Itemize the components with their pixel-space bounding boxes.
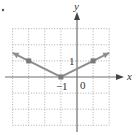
tick-label: 1 <box>69 55 75 67</box>
y-axis-arrow-icon <box>74 12 80 20</box>
x-axis-arrow-icon <box>116 74 124 80</box>
data-point <box>58 75 63 80</box>
y-axis-label: y <box>73 0 79 12</box>
data-point <box>26 58 31 63</box>
graph-figure: x y 1−10 <box>0 0 136 135</box>
x-axis-label: x <box>126 70 132 82</box>
item-bullet <box>2 9 4 11</box>
tick-label: −1 <box>56 80 68 92</box>
series <box>13 53 110 80</box>
data-point <box>91 58 96 63</box>
tick-label: 0 <box>80 79 86 91</box>
axes <box>5 12 124 132</box>
